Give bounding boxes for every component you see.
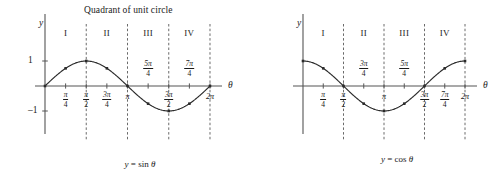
figure-row: Quadrant of unit circle y θ IIIIIIIV π4π…	[0, 0, 501, 178]
x-axis-label: θ	[483, 81, 488, 91]
x-tick-label: π4	[320, 91, 326, 109]
tick-denominator: 2	[420, 100, 430, 108]
tick-denominator: 4	[359, 69, 369, 77]
sine-plot-svg	[0, 0, 250, 178]
x-tick-label: π	[382, 93, 386, 101]
x-tick-label: 7π4	[440, 91, 450, 109]
tick-denominator: 2	[83, 100, 89, 108]
caption-theta: θ	[151, 159, 155, 169]
x-tick-label: 3π2	[164, 91, 174, 109]
x-tick-label: 5π4	[399, 60, 409, 78]
x-tick-label: 2π	[206, 93, 214, 101]
chart-title: Quadrant of unit circle	[84, 6, 173, 16]
quadrant-label: III	[399, 29, 409, 38]
quadrant-label: I	[322, 29, 325, 38]
tick-numerator: 3π	[359, 60, 369, 69]
cosine-chart-panel: y θ IIIIIIIV π4π23π4π5π43π27π42π y = cos…	[250, 0, 501, 178]
x-tick-label: 2π	[461, 93, 469, 101]
x-tick-label: π	[125, 93, 129, 101]
caption-theta: θ	[409, 154, 413, 164]
tick-denominator: 4	[440, 100, 450, 108]
quadrant-label: IV	[184, 29, 194, 38]
tick-numerator: 3π	[420, 91, 430, 100]
tick-denominator: 4	[185, 69, 195, 77]
tick-numerator: 7π	[185, 60, 195, 69]
tick-denominator: 4	[320, 100, 326, 108]
x-tick-label: 7π4	[185, 60, 195, 78]
caption-operator: = cos	[385, 154, 409, 164]
tick-numerator: 5π	[399, 60, 409, 69]
tick-denominator: 4	[102, 100, 112, 108]
tick-denominator: 4	[63, 100, 69, 108]
tick-numerator: 7π	[440, 91, 450, 100]
tick-denominator: 2	[164, 100, 174, 108]
quadrant-label: III	[143, 29, 153, 38]
quadrant-label: II	[104, 29, 111, 38]
tick-numerator: π	[63, 91, 69, 100]
x-tick-label: 3π2	[420, 91, 430, 109]
x-tick-label: 5π4	[143, 60, 153, 78]
x-axis-label: θ	[228, 81, 233, 91]
quadrant-label: I	[64, 29, 67, 38]
x-tick-label: 3π4	[102, 91, 112, 109]
tick-numerator: 3π	[102, 91, 112, 100]
x-tick-label: π2	[341, 91, 347, 109]
y-tick-label: –1	[28, 106, 38, 116]
cosine-plot-svg	[250, 0, 501, 178]
quadrant-label: II	[360, 29, 367, 38]
chart-caption: y = sin θ	[125, 160, 156, 169]
x-tick-label: π4	[63, 91, 69, 109]
tick-numerator: π	[83, 91, 89, 100]
tick-denominator: 2	[341, 100, 347, 108]
tick-denominator: 4	[143, 69, 153, 77]
y-axis-label: y	[297, 19, 301, 29]
x-tick-label: π2	[83, 91, 89, 109]
x-tick-label: 3π4	[359, 60, 369, 78]
sine-chart-panel: Quadrant of unit circle y θ IIIIIIIV π4π…	[0, 0, 250, 178]
y-axis-label: y	[39, 19, 43, 29]
caption-operator: = sin	[129, 159, 151, 169]
tick-numerator: π	[320, 91, 326, 100]
tick-numerator: 3π	[164, 91, 174, 100]
chart-caption: y = cos θ	[381, 155, 413, 164]
tick-numerator: π	[341, 91, 347, 100]
quadrant-label: IV	[440, 29, 450, 38]
tick-numerator: 5π	[143, 60, 153, 69]
tick-denominator: 4	[399, 69, 409, 77]
y-tick-label: 1	[28, 56, 33, 66]
